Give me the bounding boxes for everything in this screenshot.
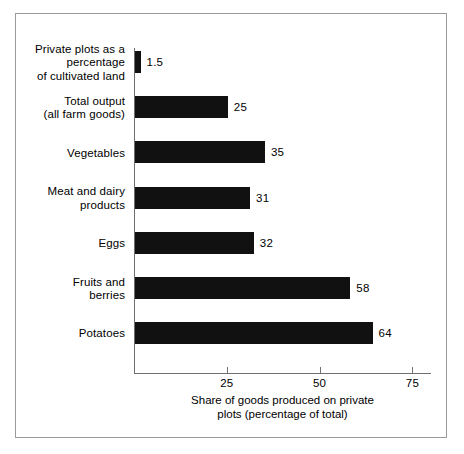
bar[interactable] — [135, 277, 350, 299]
x-axis-line — [134, 373, 431, 374]
category-label: Vegetables — [0, 147, 125, 161]
x-tick-mark — [320, 367, 321, 374]
category-label: Meat and dairy products — [0, 185, 125, 212]
chart-frame: Private plots as a percentage of cultiva… — [15, 13, 447, 438]
x-tick-mark — [412, 367, 413, 374]
x-tick-label: 75 — [392, 377, 432, 389]
bar-row: Eggs32 — [16, 232, 448, 274]
bar-value-label: 58 — [356, 282, 369, 294]
bar[interactable] — [135, 322, 373, 344]
bar-row: Total output (all farm goods)25 — [16, 96, 448, 138]
bar-chart: Private plots as a percentage of cultiva… — [16, 14, 448, 439]
category-label: Private plots as a percentage of cultiva… — [0, 43, 125, 84]
bar-value-label: 25 — [234, 101, 247, 113]
category-label: Potatoes — [0, 327, 125, 341]
bar[interactable] — [135, 96, 228, 118]
x-tick-label: 50 — [300, 377, 340, 389]
bar[interactable] — [135, 232, 254, 254]
bar[interactable] — [135, 187, 250, 209]
bar[interactable] — [135, 51, 141, 73]
bar-value-label: 64 — [379, 327, 392, 339]
x-tick-label: 25 — [207, 377, 247, 389]
x-axis-title: Share of goods produced on private plots… — [134, 393, 431, 421]
bar-value-label: 31 — [256, 192, 269, 204]
bar-value-label: 1.5 — [147, 56, 164, 68]
bar-row: Meat and dairy products31 — [16, 187, 448, 229]
category-label: Eggs — [0, 237, 125, 251]
bar-row: Fruits and berries58 — [16, 277, 448, 319]
bar-value-label: 35 — [271, 146, 284, 158]
bar[interactable] — [135, 141, 265, 163]
category-label: Fruits and berries — [0, 276, 125, 303]
x-tick-mark — [227, 367, 228, 374]
bar-value-label: 32 — [260, 237, 273, 249]
category-label: Total output (all farm goods) — [0, 95, 125, 122]
bar-row: Private plots as a percentage of cultiva… — [16, 51, 448, 93]
bar-row: Potatoes64 — [16, 322, 448, 364]
bar-row: Vegetables35 — [16, 141, 448, 183]
